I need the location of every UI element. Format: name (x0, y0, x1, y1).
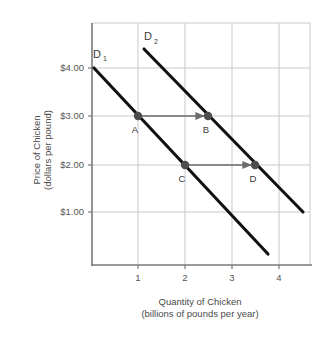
point-label-a: A (132, 124, 139, 135)
x-axis-title: Quantity of Chicken (billions of pounds … (141, 296, 258, 319)
curve-label-d2-subscript: 2 (154, 38, 158, 45)
ytick-label-2: $2.00 (60, 159, 84, 170)
point-marker-c (181, 161, 189, 169)
y-axis-title: Price of Chicken (dollars per pound) (31, 110, 53, 190)
demand-shift-chart: $4.00 $3.00 $2.00 $1.00 1 2 3 4 D 1 D 2 (0, 0, 335, 337)
point-marker-b (204, 112, 212, 120)
ytick-label-4: $4.00 (60, 62, 84, 73)
curve-label-d1: D (93, 48, 101, 60)
y-axis-title-line1: Price of Chicken (31, 115, 42, 184)
point-label-d: D (250, 173, 257, 184)
x-axis-title-line1: Quantity of Chicken (159, 296, 242, 307)
curve-label-d1-subscript: 1 (103, 55, 107, 62)
xtick-label-2: 2 (182, 272, 187, 283)
point-label-b: B (203, 124, 209, 135)
xtick-label-3: 3 (229, 272, 234, 283)
chart-figure: $4.00 $3.00 $2.00 $1.00 1 2 3 4 D 1 D 2 (0, 0, 335, 337)
y-axis-title-line2: (dollars per pound) (42, 110, 53, 190)
ytick-label-3: $3.00 (60, 110, 84, 121)
point-marker-a (134, 112, 142, 120)
point-marker-d (251, 161, 259, 169)
ytick-label-1: $1.00 (60, 206, 84, 217)
x-axis-title-line2: (billions of pounds per year) (141, 308, 258, 319)
xtick-label-1: 1 (135, 272, 140, 283)
xtick-label-4: 4 (276, 272, 281, 283)
point-label-c: C (179, 173, 186, 184)
curve-label-d2: D (144, 30, 152, 42)
